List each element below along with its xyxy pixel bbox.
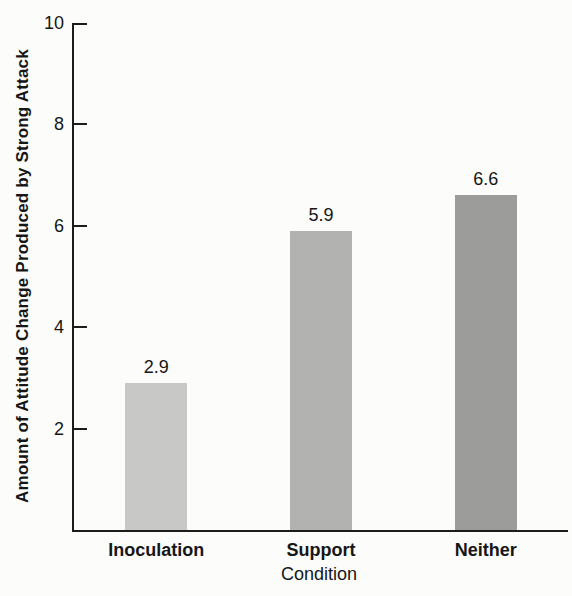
bar-category-label: Support <box>287 540 356 561</box>
y-tick-label: 10 <box>26 12 64 34</box>
bar-value-label: 2.9 <box>144 357 169 378</box>
y-tick-mark <box>74 123 87 125</box>
bar-inoculation: 2.9Inoculation <box>125 383 187 530</box>
y-tick-label: 2 <box>26 418 64 440</box>
y-tick-mark <box>74 23 87 25</box>
bar-category-label: Inoculation <box>108 540 204 561</box>
bar-chart-figure: Amount of Attitude Change Produced by St… <box>0 0 572 596</box>
y-tick-mark <box>74 225 87 227</box>
y-tick-mark <box>74 326 87 328</box>
bar-support: 5.9Support <box>290 231 352 530</box>
x-axis-title: Condition <box>72 564 566 585</box>
bar-value-label: 5.9 <box>308 205 333 226</box>
y-tick-label: 8 <box>26 113 64 135</box>
bar-category-label: Neither <box>455 540 517 561</box>
bar-neither: 6.6Neither <box>455 195 517 530</box>
bar-value-label: 6.6 <box>473 169 498 190</box>
plot-area: 108642 2.9Inoculation5.9Support6.6Neithe… <box>72 23 568 532</box>
y-tick-mark <box>74 428 87 430</box>
y-tick-label: 6 <box>26 215 64 237</box>
y-tick-label: 4 <box>26 316 64 338</box>
y-axis-title: Amount of Attitude Change Produced by St… <box>13 16 37 536</box>
